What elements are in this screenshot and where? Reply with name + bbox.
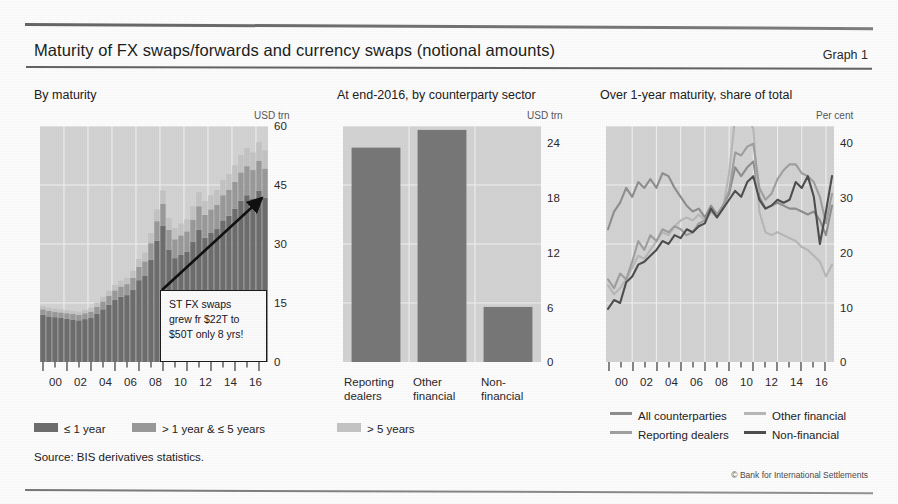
panel2-ytick-12: 12 [547, 247, 560, 259]
panel2-ytick-24: 24 [547, 137, 560, 149]
panel3-xtick-02: 02 [640, 376, 653, 388]
panel3-legend-row-2: Reporting dealers [610, 428, 729, 441]
annotation-line-3: $50T only 8 yrs! [169, 327, 259, 342]
annotation-line-1: ST FX swaps [169, 297, 259, 312]
panel1-ytick-15: 15 [274, 297, 287, 309]
panel2-ytick-6: 6 [547, 302, 553, 314]
source-note: Source: BIS derivatives statistics. [34, 451, 204, 463]
panel1-ytick-30: 30 [274, 238, 287, 250]
legend-label-all-counterparties: All counterparties [638, 410, 727, 422]
legend-swatch-1-to-5-years [132, 423, 156, 432]
panel3-unit-label: Per cent [816, 110, 853, 121]
panel3-legend-row-2b: Non-financial [744, 428, 839, 441]
legend-label-le-1-year: ≤ 1 year [64, 423, 105, 435]
legend-line-all-counterparties [610, 412, 632, 415]
panel1-legend: ≤ 1 year > 1 year & ≤ 5 years [34, 422, 265, 435]
panel3-ytick-10: 10 [840, 302, 853, 314]
legend-line-reporting-dealers [610, 431, 632, 434]
panel1-xtick-04: 04 [99, 376, 112, 388]
panel3-ytick-30: 30 [840, 192, 853, 204]
panel3-xtick-14: 14 [790, 376, 803, 388]
panel3-plot-area [606, 126, 834, 362]
legend-label-1-to-5-years: > 1 year & ≤ 5 years [162, 423, 265, 435]
annotation-callout: ST FX swaps grew fr $22T to $50T only 8 … [160, 290, 267, 362]
panel2-plot-area [343, 126, 541, 362]
panel3-xtick-04: 04 [665, 376, 678, 388]
panel2-chart-svg [343, 126, 541, 362]
legend-line-non-financial [744, 431, 766, 434]
panel3-legend-row-1b: Other financial [744, 409, 846, 422]
panel1-xtick-16: 16 [249, 376, 262, 388]
panel1-xtick-00: 00 [49, 376, 62, 388]
panel1-ytick-0: 0 [274, 356, 280, 368]
panel1-ytick-45: 45 [274, 179, 287, 191]
top-rule [25, 23, 873, 30]
panel2-category-reporting-dealers: Reporting dealers [344, 375, 394, 404]
panel2-unit-label: USD trn [527, 110, 563, 121]
panel1-xtick-06: 06 [124, 376, 137, 388]
graph-page: Maturity of FX swaps/forwards and curren… [0, 0, 898, 504]
legend-label-gt-5-years: > 5 years [367, 423, 415, 435]
panel1-legend-second-row: > 5 years [337, 422, 415, 435]
panel1-xtick-14: 14 [224, 376, 237, 388]
legend-label-other-financial: Other financial [772, 410, 846, 422]
copyright-note: © Bank for International Settlements [731, 470, 868, 480]
title-rule [26, 66, 872, 70]
annotation-line-2: grew fr $22T to [169, 312, 259, 327]
bottom-rule [25, 489, 873, 494]
panel1-xtick-12: 12 [199, 376, 212, 388]
panel3-ytick-0: 0 [840, 356, 846, 368]
panel3-ytick-20: 20 [840, 247, 853, 259]
legend-label-reporting-dealers: Reporting dealers [638, 429, 729, 441]
panel2-category-other-financial: Other financial [413, 375, 455, 404]
panel3-legend-row-1: All counterparties [610, 409, 727, 422]
panel1-title: By maturity [34, 88, 97, 102]
legend-label-non-financial: Non-financial [772, 429, 839, 441]
panel1-ytick-60: 60 [274, 120, 287, 132]
page-title: Maturity of FX swaps/forwards and curren… [34, 41, 555, 60]
panel1-xtick-02: 02 [74, 376, 87, 388]
graph-number: Graph 1 [823, 48, 868, 62]
panel3-xtick-10: 10 [740, 376, 753, 388]
panel2-category-non-financial: Non- financial [481, 375, 523, 404]
panel1-xtick-08: 08 [149, 376, 162, 388]
panel3-x-axis-ticks [606, 362, 836, 374]
legend-swatch-gt-5-years [337, 423, 361, 432]
panel1-xtick-10: 10 [174, 376, 187, 388]
panel3-ytick-40: 40 [840, 137, 853, 149]
panel3-xtick-16: 16 [815, 376, 828, 388]
panel3-xtick-08: 08 [715, 376, 728, 388]
panel3-chart-svg [606, 126, 834, 362]
panel3-xtick-00: 00 [615, 376, 628, 388]
panel3-xtick-06: 06 [690, 376, 703, 388]
panel3-title: Over 1-year maturity, share of total [600, 88, 792, 102]
legend-line-other-financial [744, 412, 766, 415]
panel1-x-axis-ticks [40, 362, 270, 374]
panel3-xtick-12: 12 [765, 376, 778, 388]
legend-swatch-le-1-year [34, 423, 58, 432]
panel2-title: At end-2016, by counterparty sector [337, 88, 536, 102]
panel2-ytick-18: 18 [547, 192, 560, 204]
panel2-ytick-0: 0 [547, 356, 553, 368]
